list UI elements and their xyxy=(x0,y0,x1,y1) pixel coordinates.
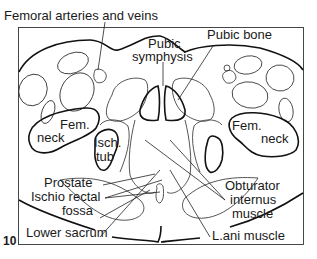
leader-sacrum xyxy=(100,170,160,237)
leader-fossa xyxy=(100,190,150,218)
femoral-vessel-right xyxy=(223,70,236,83)
label-lower-sacrum: Lower sacrum xyxy=(26,225,108,240)
fat-lobule xyxy=(264,63,296,93)
vessel xyxy=(224,65,230,71)
pubic-bone-left-outer xyxy=(106,78,147,121)
rectum xyxy=(156,184,164,203)
lower-sacrum xyxy=(112,226,200,242)
pubic-symphysis-left xyxy=(140,86,160,121)
label-ischio-rectal-1: Ischio rectal xyxy=(31,189,100,204)
label-pubic-symphysis-2: symphysis xyxy=(132,49,193,64)
leader-obturator-2 xyxy=(145,140,225,200)
label-obturator-1: Obturator xyxy=(225,178,281,193)
pubic-symphysis-right xyxy=(165,86,186,121)
figure-number: 10 xyxy=(3,234,17,248)
leader-prostate xyxy=(103,174,155,185)
label-isch-tub-1: Isch. xyxy=(94,135,121,150)
obturator-right xyxy=(167,120,191,193)
label-obturator-2: internus xyxy=(230,192,277,207)
label-obturator-3: muscle xyxy=(232,206,273,221)
label-levator-ani: L.ani muscle xyxy=(212,228,285,243)
label-fem-neck-right-1: Fem. xyxy=(232,118,262,133)
label-fem-neck-left-2: neck xyxy=(37,130,65,145)
leader-femoral xyxy=(98,22,105,70)
leader-levator xyxy=(170,170,210,237)
label-ischio-rectal-2: fossa xyxy=(62,203,94,218)
pelvis-diagram: Femoral arteries and veins Pubic bone Pu… xyxy=(0,0,317,259)
fat-lobule xyxy=(38,99,57,126)
fat-lobule xyxy=(230,79,270,111)
fat-lobule xyxy=(277,97,295,123)
label-pubic-bone: Pubic bone xyxy=(207,27,272,42)
fat-lobule xyxy=(55,48,92,78)
obturator-left xyxy=(129,120,155,193)
fat-lobule xyxy=(233,54,264,77)
label-prostate: Prostate xyxy=(44,175,92,190)
label-femoral-vessels: Femoral arteries and veins xyxy=(4,8,158,23)
label-fem-neck-right-2: neck xyxy=(261,131,289,146)
femoral-vessel-left xyxy=(94,69,106,83)
ischial-tuberosity-right xyxy=(205,136,223,172)
label-isch-tub-2: tub xyxy=(96,149,114,164)
